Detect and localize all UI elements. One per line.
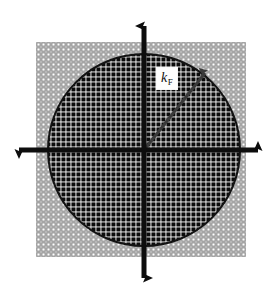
fermi-circle-figure: kF bbox=[0, 0, 273, 299]
kf-label: kF bbox=[157, 68, 177, 89]
fermi-circle-diagram bbox=[0, 0, 273, 299]
kf-symbol: k bbox=[161, 70, 167, 85]
kf-subscript: F bbox=[168, 77, 173, 87]
